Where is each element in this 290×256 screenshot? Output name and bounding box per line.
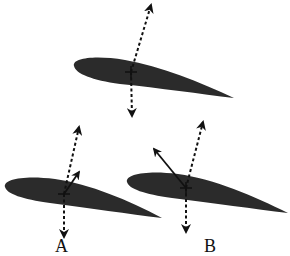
airfoil-top-shape bbox=[74, 58, 234, 98]
label-a: A bbox=[55, 237, 68, 255]
label-b: B bbox=[204, 237, 216, 255]
lift-vector-top bbox=[131, 5, 151, 72]
airfoil-top bbox=[74, 5, 234, 116]
airfoil-diagram bbox=[0, 0, 290, 256]
weight-vector-top bbox=[131, 72, 132, 116]
airfoil-b-shape bbox=[127, 172, 288, 213]
